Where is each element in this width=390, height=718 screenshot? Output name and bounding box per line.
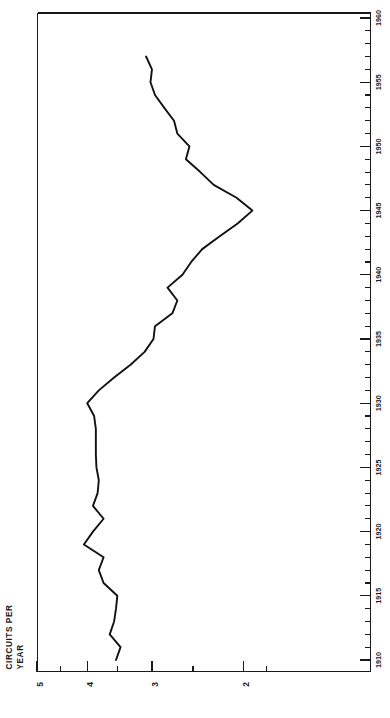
data-series-line xyxy=(84,57,252,660)
year-axis-tick-label: 1910 xyxy=(374,652,383,668)
plot-frame xyxy=(38,13,371,672)
year-axis-tick-label: 1915 xyxy=(374,588,383,604)
value-axis-tick-label: 4 xyxy=(85,682,95,687)
year-axis-tick-label: 1950 xyxy=(374,138,383,154)
value-axis-tick-label: 5 xyxy=(35,682,45,687)
year-axis-tick-label: 1925 xyxy=(374,459,383,475)
value-axis-title-line: YEAR xyxy=(16,644,25,669)
line-chart-svg: 5432191019151920192519301935194019451950… xyxy=(0,0,390,718)
year-axis-tick-label: 1935 xyxy=(374,331,383,347)
year-axis-tick-label: 1930 xyxy=(374,395,383,411)
value-axis-tick-label: 3 xyxy=(150,682,160,687)
year-axis-tick-label: 1940 xyxy=(374,267,383,283)
year-axis-tick-label: 1945 xyxy=(374,203,383,219)
value-axis-tick-label: 2 xyxy=(241,682,251,687)
value-axis-title-line: CIRCUITS PER xyxy=(5,605,14,670)
year-axis-tick-label: 1920 xyxy=(374,524,383,540)
year-axis-tick-label: 1960 xyxy=(374,10,383,26)
year-axis-tick-label: 1955 xyxy=(374,74,383,90)
chart-figure: 5432191019151920192519301935194019451950… xyxy=(0,0,390,718)
